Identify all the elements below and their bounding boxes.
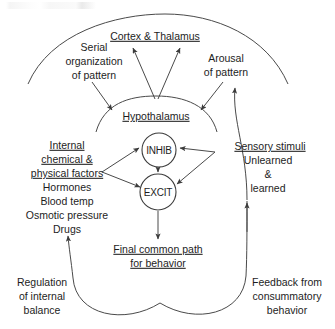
label-internal-factors-line-3: physical factors (31, 167, 103, 179)
arrow-internal-to-inhib (102, 148, 139, 172)
label-sensory-ampersand: & (264, 168, 271, 180)
label-excit: EXCIT (144, 187, 173, 198)
label-sensory-unlearned: Unlearned (244, 154, 293, 166)
arrow-internal-to-excit (102, 172, 140, 187)
label-feedback-line-1: Feedback from (252, 276, 322, 288)
label-internal-factor-osmotic-pressure: Osmotic pressure (26, 209, 108, 221)
label-internal-factor-drugs: Drugs (53, 223, 81, 235)
arrow-sensory-to-inhib (180, 148, 215, 152)
label-feedback-line-3: behavior (267, 304, 308, 316)
label-hypothalamus: Hypothalamus (122, 110, 189, 122)
arrow-serial-to-hypothalamus (92, 82, 112, 110)
cortex-arc (28, 14, 288, 84)
label-regulation-line-1: Regulation (17, 276, 67, 288)
label-regulation-line-3: balance (24, 304, 61, 316)
diagram-svg: Cortex & Thalamus Serial organization of… (0, 0, 335, 329)
arrow-hypothalamus-to-cortex-right (158, 48, 180, 99)
label-serial-organization-line-3: of pattern (72, 69, 117, 81)
label-arousal-line-1: Arousal (208, 52, 244, 64)
label-inhib: INHIB (146, 145, 172, 156)
label-feedback-line-2: consummatory (253, 290, 323, 302)
arrow-hypothalamus-to-cortex-left (133, 48, 155, 99)
arrow-sensory-to-excit (177, 152, 215, 184)
label-internal-factors-line-1: Internal (49, 139, 84, 151)
label-sensory-learned: learned (250, 182, 285, 194)
diagram-canvas: Cortex & Thalamus Serial organization of… (0, 0, 335, 329)
label-internal-factor-blood-temp: Blood temp (40, 195, 93, 207)
label-internal-factor-hormones: Hormones (43, 181, 91, 193)
label-cortex-thalamus: Cortex & Thalamus (110, 30, 200, 42)
label-internal-factors-line-2: chemical & (41, 153, 92, 165)
label-final-path-line-2: for behavior (130, 257, 186, 269)
arrow-arousal-to-hypothalamus (201, 82, 223, 110)
label-sensory-stimuli: Sensory stimuli (234, 140, 305, 152)
label-serial-organization-line-2: organization (65, 55, 122, 67)
label-arousal-line-2: of pattern (204, 66, 249, 78)
label-final-path-line-1: Final common path (113, 243, 202, 255)
label-serial-organization-line-1: Serial (81, 41, 108, 53)
label-regulation-line-2: of internal (19, 290, 65, 302)
